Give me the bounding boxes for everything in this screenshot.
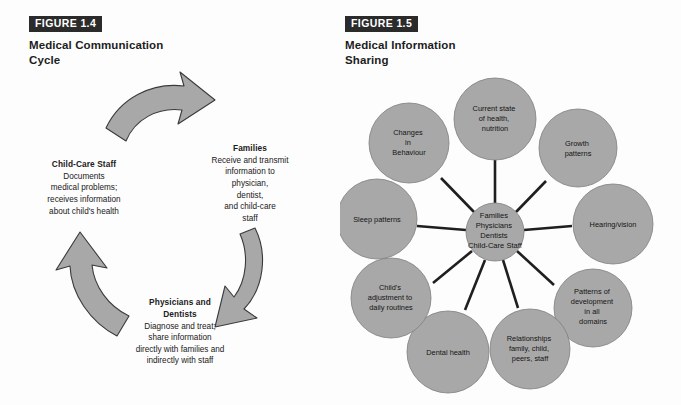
node-dental-health-label: Dental health <box>426 348 470 357</box>
caption-families-body: Receive and transmitinformation tophysic… <box>189 155 311 225</box>
caption-families-heading: Families <box>189 143 311 155</box>
caption-physicians-dentists: Physicians andDentists Diagnose and trea… <box>108 297 252 367</box>
caption-physicians-dentists-heading: Physicians andDentists <box>108 297 252 321</box>
connector-sleep-patterns <box>417 226 466 230</box>
connector-relationships <box>503 260 518 308</box>
connector-childs-adjustment <box>433 251 472 283</box>
node-hearing-vision-label: Hearing/vision <box>590 220 637 229</box>
figure-page: FIGURE 1.4 Medical Communication Cycle F… <box>0 0 681 405</box>
connector-patterns-development <box>517 251 554 285</box>
caption-child-care-staff-body: Documentsmedical problems;receives infor… <box>22 171 146 218</box>
node-growth-patterns-label: Growth patterns <box>565 139 592 158</box>
node-growth-patterns-circle <box>539 109 617 187</box>
connector-hearing-vision <box>524 226 572 230</box>
node-sleep-patterns-label: Sleep patterns <box>353 215 401 224</box>
connector-dental-health <box>465 260 485 310</box>
figure-1-4: FIGURE 1.4 Medical Communication Cycle F… <box>0 0 340 405</box>
connector-growth-patterns <box>516 181 546 212</box>
caption-physicians-dentists-body: Diagnose and treat;share informationdire… <box>108 321 252 368</box>
medical-information-sharing-diagram: Current state of health, nutrition Growt… <box>340 0 681 405</box>
figure-1-5: FIGURE 1.5 Medical Information Sharing <box>340 0 681 405</box>
caption-child-care-staff: Child-Care Staff Documentsmedical proble… <box>22 159 146 217</box>
caption-child-care-staff-heading: Child-Care Staff <box>22 159 146 171</box>
node-relationships-label: Relationships family, child, peers, staf… <box>507 334 553 363</box>
connector-changes-behaviour <box>441 178 474 212</box>
caption-families: Families Receive and transmitinformation… <box>189 143 311 225</box>
cycle-arrow-top-icon <box>106 72 215 141</box>
figure-divider <box>339 0 340 405</box>
